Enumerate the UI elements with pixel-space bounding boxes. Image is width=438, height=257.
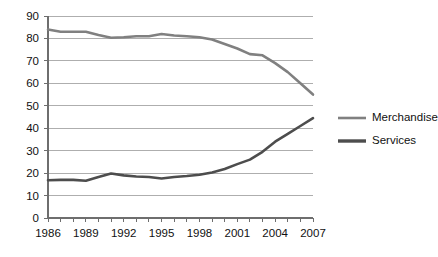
y-tick-label: 90 <box>26 10 39 22</box>
legend-label-merchandise: Merchandise <box>372 111 438 123</box>
x-tick-label: 1986 <box>35 227 61 239</box>
chart-canvas: 0102030405060708090 19861989199219951998… <box>0 0 438 257</box>
y-tick-label: 30 <box>26 145 39 157</box>
line-chart: 0102030405060708090 19861989199219951998… <box>0 0 438 257</box>
x-tick-label: 2007 <box>300 227 326 239</box>
y-tick-label: 60 <box>26 77 39 89</box>
x-tick-label: 1998 <box>187 227 213 239</box>
x-tick-label: 1995 <box>149 227 175 239</box>
y-tick-label: 70 <box>26 55 39 67</box>
x-tick-label: 1989 <box>73 227 99 239</box>
y-tick-label: 20 <box>26 167 39 179</box>
y-tick-label: 0 <box>33 212 39 224</box>
x-tick-label: 2004 <box>262 227 288 239</box>
x-tick-label: 1992 <box>111 227 137 239</box>
x-tick-label: 2001 <box>224 227 250 239</box>
legend-label-services: Services <box>372 134 416 146</box>
y-tick-label: 80 <box>26 32 39 44</box>
y-tick-label: 10 <box>26 190 39 202</box>
y-tick-label: 50 <box>26 100 39 112</box>
y-tick-label: 40 <box>26 122 39 134</box>
